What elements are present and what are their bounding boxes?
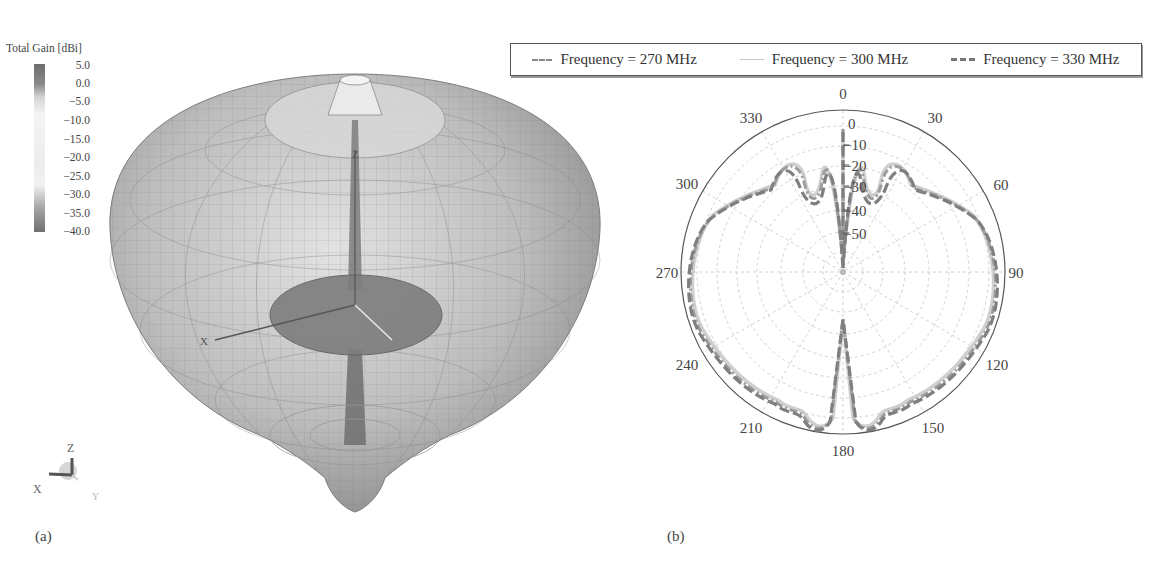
colorbar-tick: −10.0 xyxy=(48,114,90,126)
panel-b-label: (b) xyxy=(667,528,685,545)
triad-y-label: Y xyxy=(92,491,99,502)
legend-item-270: Frequency = 270 MHz xyxy=(532,51,696,68)
radial-label: −10 xyxy=(843,137,866,154)
x-axis-label: X xyxy=(200,335,208,347)
angle-label-300: 300 xyxy=(676,176,699,193)
colorbar-tick: −35.0 xyxy=(48,207,90,219)
legend: Frequency = 270 MHz Frequency = 300 MHz … xyxy=(510,43,1142,76)
colorbar-tick: −40.0 xyxy=(48,225,90,237)
legend-item-300: Frequency = 300 MHz xyxy=(740,51,908,68)
angle-label-30: 30 xyxy=(928,110,943,127)
panel-a-label: (a) xyxy=(35,528,52,545)
z-axis-label: Z xyxy=(352,148,359,160)
triad-z-label: Z xyxy=(67,441,74,456)
legend-swatch-dashed xyxy=(951,58,975,61)
angle-label-270: 270 xyxy=(656,265,679,282)
angle-label-330: 330 xyxy=(740,110,763,127)
angle-label-60: 60 xyxy=(994,177,1009,194)
radial-label: −30 xyxy=(843,179,866,196)
legend-label: Frequency = 300 MHz xyxy=(772,51,908,68)
angle-label-210: 210 xyxy=(740,420,763,437)
angle-label-180: 180 xyxy=(832,443,855,460)
radial-label: −20 xyxy=(843,158,866,175)
series-330mhz xyxy=(689,132,998,430)
colorbar xyxy=(34,64,45,232)
radial-label: 0 xyxy=(848,116,856,133)
radial-label: −40 xyxy=(843,203,866,220)
angle-label-240: 240 xyxy=(676,357,699,374)
radiation-pattern-3d: Z X xyxy=(100,60,610,530)
colorbar-tick: 0.0 xyxy=(48,77,90,89)
angle-label-0: 0 xyxy=(839,86,847,103)
angle-label-150: 150 xyxy=(922,420,945,437)
colorbar-tick: −5.0 xyxy=(48,95,90,107)
colorbar-tick: −25.0 xyxy=(48,170,90,182)
colorbar-tick: −15.0 xyxy=(48,133,90,145)
legend-swatch-dashdot xyxy=(532,59,552,61)
legend-label: Frequency = 330 MHz xyxy=(983,51,1119,68)
colorbar-tick: −30.0 xyxy=(48,188,90,200)
colorbar-tick: 5.0 xyxy=(48,59,90,71)
triad-x-label: X xyxy=(33,482,42,497)
angle-label-90: 90 xyxy=(1009,265,1024,282)
legend-item-330: Frequency = 330 MHz xyxy=(951,51,1119,68)
angle-label-120: 120 xyxy=(986,357,1009,374)
legend-swatch-solid xyxy=(740,59,764,60)
colorbar-title: Total Gain [dBi] xyxy=(6,42,82,54)
legend-label: Frequency = 270 MHz xyxy=(560,51,696,68)
radial-label: −50 xyxy=(843,226,866,243)
colorbar-tick: −20.0 xyxy=(48,151,90,163)
